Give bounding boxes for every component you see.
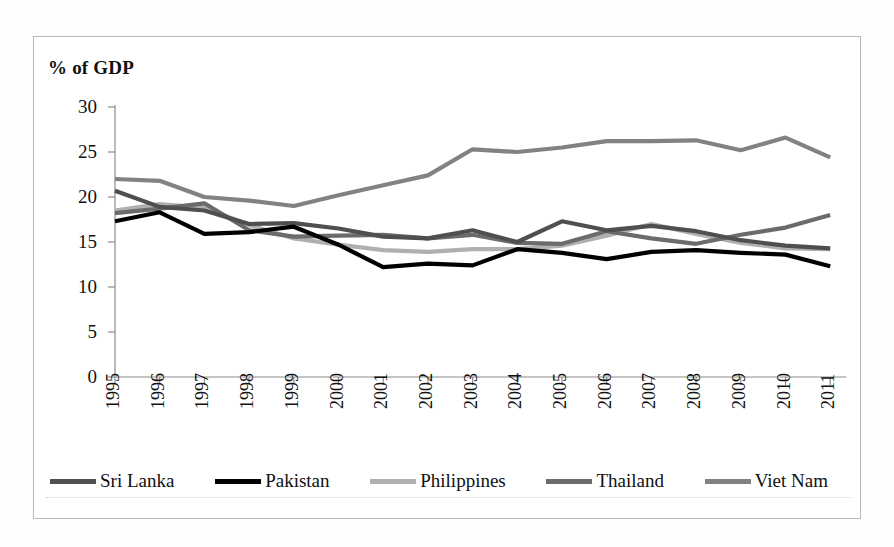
legend-separator <box>46 497 852 498</box>
x-axis-tick-label: 2010 <box>775 373 793 409</box>
x-axis-tick-label: 1995 <box>104 373 122 409</box>
x-axis-tick-label: 2008 <box>685 373 703 409</box>
legend-swatch-icon <box>705 479 751 484</box>
chart-series <box>115 138 830 268</box>
x-axis-tick-label: 2004 <box>506 373 524 409</box>
chart-legend: Sri LankaPakistanPhilippinesThailandViet… <box>50 466 850 496</box>
legend-swatch-icon <box>215 479 261 484</box>
legend-label: Philippines <box>420 470 506 492</box>
x-axis-tick-label: 2003 <box>462 373 480 409</box>
legend-item-philippines[interactable]: Philippines <box>370 470 506 492</box>
legend-swatch-icon <box>50 479 96 484</box>
legend-item-pakistan[interactable]: Pakistan <box>215 470 329 492</box>
y-axis-tick-label: 30 <box>57 97 97 116</box>
x-axis-tick-label: 2011 <box>819 374 837 409</box>
x-axis-tick-label: 1999 <box>283 373 301 409</box>
y-axis-tick-label: 20 <box>57 187 97 206</box>
x-axis-tick-label: 2001 <box>372 373 390 409</box>
y-axis-tick-label: 10 <box>57 277 97 296</box>
legend-item-thailand[interactable]: Thailand <box>546 470 664 492</box>
legend-label: Sri Lanka <box>100 470 174 492</box>
x-axis-tick-label: 2009 <box>730 373 748 409</box>
y-axis-tick-label: 15 <box>57 232 97 251</box>
y-axis-tick-label: 0 <box>57 367 97 386</box>
x-axis-tick-label: 1998 <box>238 373 256 409</box>
y-axis-tick-label: 5 <box>57 322 97 341</box>
x-axis-tick-label: 2002 <box>417 373 435 409</box>
x-axis-tick-label: 2005 <box>551 373 569 409</box>
x-axis-tick-label: 1997 <box>193 373 211 409</box>
legend-item-sri-lanka[interactable]: Sri Lanka <box>50 470 174 492</box>
series-line-philippines <box>115 204 830 252</box>
line-chart-plot <box>0 0 894 547</box>
legend-item-viet-nam[interactable]: Viet Nam <box>705 470 828 492</box>
x-axis-tick-label: 2000 <box>328 373 346 409</box>
legend-swatch-icon <box>370 479 416 484</box>
x-axis-tick-label: 2007 <box>640 373 658 409</box>
x-axis-tick-label: 1996 <box>149 373 167 409</box>
chart-figure: % of GDP 051015202530 199519961997199819… <box>0 0 894 547</box>
y-axis-tick-label: 25 <box>57 142 97 161</box>
x-axis-tick-label: 2006 <box>596 373 614 409</box>
legend-label: Pakistan <box>265 470 329 492</box>
legend-label: Viet Nam <box>755 470 828 492</box>
legend-label: Thailand <box>596 470 664 492</box>
series-line-viet-nam <box>115 138 830 206</box>
legend-swatch-icon <box>546 479 592 484</box>
